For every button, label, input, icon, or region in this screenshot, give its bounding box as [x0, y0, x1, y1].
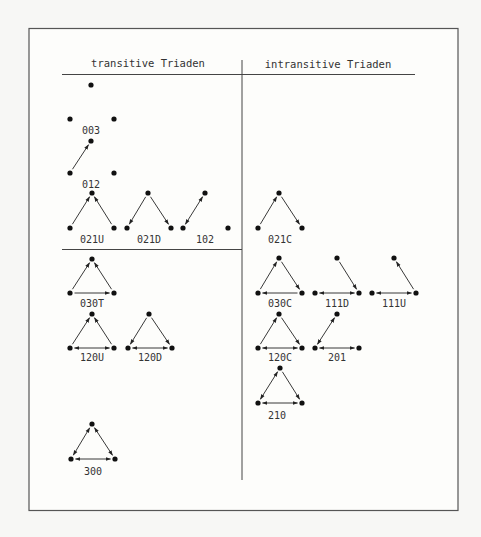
header-transitive: transitive Triaden: [91, 57, 205, 69]
node-dot: [277, 365, 282, 370]
node-dot: [89, 256, 94, 261]
node-dot: [299, 225, 304, 230]
outer-frame: [29, 29, 458, 511]
triad-label: 111U: [382, 298, 406, 309]
node-dot: [391, 255, 396, 260]
triad-label: 120U: [80, 352, 104, 363]
node-dot: [89, 190, 94, 195]
triad-label: 012: [82, 179, 100, 190]
node-dot: [88, 138, 93, 143]
node-dot: [145, 190, 150, 195]
node-dot: [67, 345, 72, 350]
node-dot: [111, 345, 116, 350]
node-dot: [111, 225, 116, 230]
node-dot: [168, 225, 173, 230]
triad-label: 111D: [325, 298, 349, 309]
node-dot: [146, 311, 151, 316]
triad-label: 120C: [268, 352, 292, 363]
triad-label: 030T: [80, 298, 104, 309]
node-dot: [312, 290, 317, 295]
node-dot: [334, 311, 339, 316]
node-dot: [299, 345, 304, 350]
node-dot: [299, 290, 304, 295]
triad-census-diagram: transitive Triaden intransitive Triaden …: [0, 0, 481, 537]
node-dot: [255, 225, 260, 230]
node-dot: [67, 290, 72, 295]
node-dot: [255, 345, 260, 350]
triad-label: 030C: [268, 298, 292, 309]
node-dot: [124, 225, 129, 230]
node-dot: [255, 290, 260, 295]
node-dot: [88, 82, 93, 87]
triad-label: 201: [328, 352, 346, 363]
node-dot: [89, 311, 94, 316]
node-dot: [312, 345, 317, 350]
triad-label: 021U: [80, 234, 104, 245]
node-dot: [112, 456, 117, 461]
node-dot: [67, 170, 72, 175]
node-dot: [125, 345, 130, 350]
node-dot: [356, 290, 361, 295]
node-dot: [413, 290, 418, 295]
header-intransitive: intransitive Triaden: [265, 58, 391, 70]
node-dot: [67, 116, 72, 121]
node-dot: [111, 116, 116, 121]
node-dot: [299, 400, 304, 405]
node-dot: [276, 311, 281, 316]
node-dot: [67, 225, 72, 230]
triad-label: 102: [196, 234, 214, 245]
node-dot: [334, 255, 339, 260]
node-dot: [111, 290, 116, 295]
node-dot: [68, 456, 73, 461]
node-dot: [180, 225, 185, 230]
triad-label: 021D: [137, 234, 161, 245]
triad-label: 021C: [268, 234, 292, 245]
node-dot: [169, 345, 174, 350]
node-dot: [276, 190, 281, 195]
node-dot: [89, 421, 94, 426]
node-dot: [202, 190, 207, 195]
triad-label: 120D: [138, 352, 162, 363]
node-dot: [255, 400, 260, 405]
node-dot: [111, 170, 116, 175]
node-dot: [276, 255, 281, 260]
node-dot: [369, 290, 374, 295]
node-dot: [225, 225, 230, 230]
triad-label: 003: [82, 125, 100, 136]
node-dot: [356, 345, 361, 350]
triad-label: 210: [268, 410, 286, 421]
triad-label: 300: [84, 466, 102, 477]
